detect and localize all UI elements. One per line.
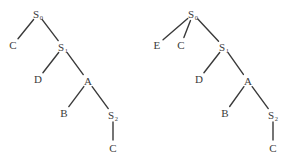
node-subscript: 0 [40,14,43,21]
node-symbol: E [154,39,161,51]
tree-node-label: A [84,76,92,87]
tree-node-label: A [244,76,252,87]
tree-node-label: S2 [268,110,278,121]
tree-node-label: C [109,143,117,154]
node-symbol: S [108,109,114,121]
tree-edge [204,53,220,73]
node-subscript: 1 [65,47,68,54]
tree-node-label: B [60,108,68,119]
right-tree-edges [163,19,273,140]
node-symbol: S [58,41,64,53]
node-symbol: S [188,8,194,20]
tree-edge [42,20,58,41]
tree-node-label: C [269,143,277,154]
tree-node-label: B [221,108,229,119]
tree-edge [184,21,191,38]
node-symbol: S [219,41,225,53]
tree-node-label: C [9,40,17,51]
node-symbol: S [33,8,39,20]
tree-node-label: D [34,74,42,85]
tree-node-label: S0 [188,9,198,20]
node-symbol: B [221,107,229,119]
tree-edge [252,87,268,109]
tree-edge [18,19,34,38]
node-symbol: C [109,142,117,154]
node-subscript: 1 [226,47,229,54]
tree-node-label: C [177,40,185,51]
node-symbol: D [34,73,42,85]
node-symbol: C [177,39,185,51]
tree-node-label: D [195,74,203,85]
tree-node-label: S2 [108,110,118,121]
node-symbol: B [60,107,68,119]
tree-node-label: S1 [219,42,229,53]
node-symbol: D [195,73,203,85]
figure-canvas: S0CS1DABS2CS0ECS1DABS2C [0,0,291,166]
node-subscript: 0 [195,14,198,21]
tree-edge [163,19,188,40]
node-symbol: A [84,75,92,87]
tree-node-label: S1 [58,42,68,53]
tree-edge [230,87,244,107]
tree-node-label: E [154,40,161,51]
node-subscript: 2 [115,115,118,122]
node-subscript: 2 [275,115,278,122]
tree-edge [228,53,243,75]
tree-edge [43,53,59,73]
node-symbol: C [269,142,277,154]
tree-edge [198,19,219,41]
node-symbol: A [244,75,252,87]
tree-edge [92,87,108,109]
left-tree-edges [18,19,113,140]
node-symbol: C [9,39,17,51]
tree-edge [69,87,84,107]
tree-edge [67,53,83,75]
node-symbol: S [268,109,274,121]
tree-node-label: S0 [33,9,43,20]
